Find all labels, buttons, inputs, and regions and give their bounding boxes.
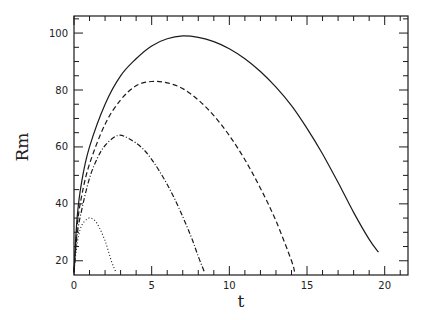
x-tick-label: 0 — [71, 280, 77, 291]
x-tick-label: 10 — [223, 280, 236, 291]
y-tick-label: 20 — [55, 255, 68, 266]
series-line-dotted — [74, 218, 116, 272]
x-tick-label: 20 — [378, 280, 391, 291]
y-tick-label: 40 — [55, 198, 68, 209]
series-line-dash-dot — [74, 135, 205, 272]
axis-ticks — [74, 16, 408, 275]
series-line-dashed — [74, 81, 295, 272]
x-tick-label: 15 — [301, 280, 314, 291]
x-tick-labels: 05101520 — [71, 280, 391, 291]
x-axis-title: t — [238, 291, 245, 311]
y-tick-label: 60 — [55, 141, 68, 152]
line-chart: 05101520 20406080100 t Rm — [0, 0, 423, 320]
series-line-solid — [74, 36, 379, 272]
plot-frame — [74, 16, 408, 275]
x-tick-label: 5 — [148, 280, 154, 291]
y-axis-title: Rm — [12, 133, 32, 162]
plot-lines — [74, 36, 379, 272]
y-tick-label: 80 — [55, 85, 68, 96]
y-tick-label: 100 — [49, 28, 68, 39]
y-tick-labels: 20406080100 — [49, 28, 68, 267]
